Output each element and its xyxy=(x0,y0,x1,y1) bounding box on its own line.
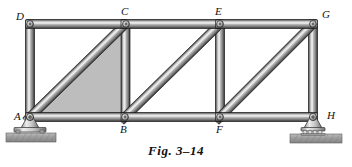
joint-label-B: B xyxy=(120,124,127,135)
member-BE xyxy=(118,23,221,125)
joint-pin-E xyxy=(217,21,224,28)
figure-caption: Fig. 3–14 xyxy=(0,143,352,159)
joint-label-D: D xyxy=(16,11,24,22)
truss-diagram xyxy=(0,0,352,167)
joint-label-A: A xyxy=(14,111,21,122)
joint-label-G: G xyxy=(322,9,330,20)
member-DA xyxy=(26,20,35,121)
ground-left xyxy=(6,133,56,142)
member-EG xyxy=(216,20,318,29)
joint-label-C: C xyxy=(121,6,128,17)
joint-pin-B xyxy=(122,114,129,121)
joint-label-H: H xyxy=(327,110,335,121)
member-DC xyxy=(26,20,127,29)
member-FH xyxy=(216,113,318,122)
joint-label-E: E xyxy=(215,6,222,17)
member-AB xyxy=(26,113,126,122)
member-FG xyxy=(213,23,315,125)
figure-container: D C E G A B F H Fig. 3–14 xyxy=(0,0,352,167)
member-CB xyxy=(121,20,130,121)
member-GH xyxy=(309,20,318,121)
member-EF xyxy=(216,20,225,121)
joint-pin-G xyxy=(310,21,317,28)
joint-pin-F xyxy=(217,114,224,121)
joint-label-F: F xyxy=(216,124,223,135)
joint-pin-D xyxy=(27,21,34,28)
joint-pin-C xyxy=(123,21,130,28)
member-BF xyxy=(121,113,221,122)
member-CE xyxy=(121,20,221,29)
